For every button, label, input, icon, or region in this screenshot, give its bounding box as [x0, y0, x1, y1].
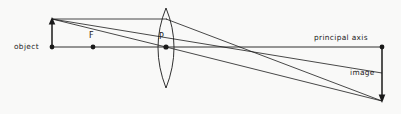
pole-label: P [159, 33, 164, 41]
parallel-ray-refracted [166, 19, 382, 101]
pole-point-marker [163, 44, 168, 49]
image-base-point [380, 45, 385, 50]
object-base-point [50, 45, 55, 50]
central-ray-incident [52, 19, 166, 47]
focal-point-label: F [89, 32, 94, 40]
object-label: object [14, 43, 39, 50]
image-label: image [350, 69, 375, 76]
object-arrowhead [49, 17, 56, 25]
focal-point-marker [91, 45, 96, 50]
ray-diagram-canvas [0, 0, 401, 114]
image-arrowhead [379, 95, 386, 104]
lens-ray-diagram-figure: object principal axis image F P [0, 0, 401, 114]
principal-axis-label: principal axis [314, 34, 368, 41]
secondary-ray [52, 19, 382, 73]
